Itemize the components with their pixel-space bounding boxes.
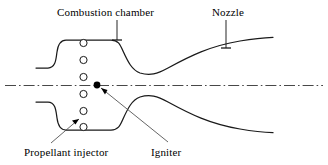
injector-hole [80,123,87,130]
igniter-leader-line [101,88,168,142]
combustion-chamber-label: Combustion chamber [57,6,154,19]
injector-hole [80,73,87,80]
igniter-label: Igniter [151,146,181,159]
propellant-injector-label: Propellant injector [24,146,108,159]
igniter-point [94,82,101,89]
diagram-canvas [0,0,328,165]
injector-hole [80,39,87,46]
lower-wall-contour [36,96,273,133]
upper-wall-contour [36,37,273,74]
propellant-injector-holes [80,39,87,130]
nozzle-label: Nozzle [212,6,244,19]
rocket-engine-diagram: Combustion chamber Nozzle Propellant inj… [0,0,328,165]
igniter-arrowhead-icon [101,88,108,95]
injector-hole [80,56,87,63]
injector-hole [80,90,87,97]
injector-hole [80,107,87,114]
